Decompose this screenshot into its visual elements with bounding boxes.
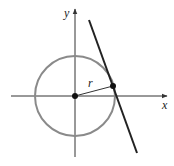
tangency-point [110, 83, 116, 89]
radius-label: r [88, 76, 93, 90]
tangent-circle-diagram: y x r [0, 0, 174, 166]
center-point [72, 93, 78, 99]
y-axis-label: y [63, 6, 70, 20]
x-axis-label: x [161, 98, 168, 112]
radius-segment [75, 86, 113, 96]
